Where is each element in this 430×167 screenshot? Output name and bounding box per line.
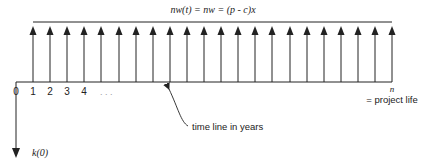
up-arrow-icon — [30, 26, 37, 35]
up-arrow-icon — [116, 26, 123, 35]
up-arrow-icon — [304, 26, 311, 35]
up-arrow-icon — [98, 26, 105, 35]
up-arrow-icon — [321, 26, 328, 35]
up-arrow-icon — [167, 26, 174, 35]
down-arrow-icon — [12, 148, 20, 158]
up-arrow-icon — [338, 26, 345, 35]
up-arrow-icon — [287, 26, 294, 35]
cash-inflow-arrows — [30, 26, 396, 82]
cash-flow-diagram: nw(t) = nw = (p - c)x 0 1 2 3 4 . . . n … — [0, 0, 430, 167]
up-arrow-icon — [355, 26, 362, 35]
up-arrow-icon — [81, 26, 88, 35]
up-arrow-icon — [372, 26, 379, 35]
timeline-annotation: time line in years — [192, 121, 264, 132]
up-arrow-icon — [64, 26, 71, 35]
up-arrow-icon — [235, 26, 242, 35]
title-formula: nw(t) = nw = (p - c)x — [170, 4, 256, 16]
project-life-caption: = project life — [366, 94, 418, 105]
up-arrow-icon — [252, 26, 259, 35]
up-arrow-icon — [133, 26, 140, 35]
up-arrow-icon — [218, 26, 225, 35]
up-arrow-icon — [184, 26, 191, 35]
end-label-n: n — [390, 84, 395, 94]
up-arrow-icon — [47, 26, 54, 35]
up-arrow-icon — [201, 26, 208, 35]
tick-ellipsis: . . . — [100, 87, 113, 97]
up-arrow-icon — [389, 26, 396, 35]
tick-label-1: 1 — [30, 86, 36, 97]
up-arrow-icon — [269, 26, 276, 35]
tick-label-3: 3 — [64, 86, 70, 97]
initial-outflow-label: k(0) — [32, 147, 49, 159]
tick-label-2: 2 — [47, 86, 53, 97]
up-arrow-icon — [150, 26, 157, 35]
tick-labels: 0 1 2 3 4 . . . — [13, 86, 112, 97]
tick-label-4: 4 — [81, 86, 87, 97]
annotation-pointer-icon — [169, 89, 188, 126]
